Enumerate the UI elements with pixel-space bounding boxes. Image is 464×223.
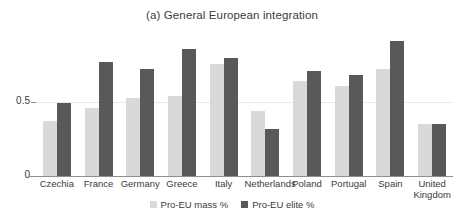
bar-pro-eu-elite[interactable]: [265, 129, 279, 176]
bar-pro-eu-mass[interactable]: [85, 108, 99, 176]
y-tick-label-zero: 0: [4, 170, 30, 180]
bar-pro-eu-elite[interactable]: [432, 124, 446, 176]
y-tick-label-half: 0.5: [4, 96, 30, 106]
legend-swatch-icon: [150, 201, 157, 208]
x-axis-label-spain: Spain: [370, 178, 412, 189]
bar-pro-eu-mass[interactable]: [126, 98, 140, 176]
bar-pro-eu-mass[interactable]: [293, 81, 307, 176]
x-axis-label-netherlands: Netherlands: [245, 178, 287, 189]
bar-group: [376, 28, 404, 176]
bar-group: [251, 28, 279, 176]
bar-pro-eu-elite[interactable]: [99, 62, 113, 176]
legend-label: Pro-EU mass %: [161, 199, 229, 210]
bar-group: [418, 28, 446, 176]
bar-group: [335, 28, 363, 176]
y-axis: 0.5 0: [0, 0, 30, 223]
bar-pro-eu-mass[interactable]: [418, 124, 432, 176]
bar-pro-eu-elite[interactable]: [224, 58, 238, 176]
x-axis-label-portugal: Portugal: [328, 178, 370, 189]
chart-title: (a) General European integration: [0, 9, 464, 21]
plot-area: [36, 28, 453, 176]
bar-pro-eu-elite[interactable]: [182, 49, 196, 176]
bar-group: [85, 28, 113, 176]
x-axis-label-poland: Poland: [286, 178, 328, 189]
x-axis-label-italy: Italy: [203, 178, 245, 189]
chart-legend: Pro-EU mass %Pro-EU elite %: [0, 199, 464, 210]
bar-pro-eu-mass[interactable]: [210, 64, 224, 176]
x-axis-line: [28, 176, 453, 177]
x-axis-label-united-kingdom: United Kingdom: [411, 178, 453, 200]
x-axis-label-france: France: [78, 178, 120, 189]
bar-pro-eu-mass[interactable]: [376, 69, 390, 176]
legend-item[interactable]: Pro-EU elite %: [241, 199, 314, 210]
bar-pro-eu-elite[interactable]: [57, 103, 71, 176]
bar-pro-eu-elite[interactable]: [349, 75, 363, 176]
bar-group: [126, 28, 154, 176]
bar-group: [293, 28, 321, 176]
bar-pro-eu-mass[interactable]: [168, 96, 182, 176]
bar-pro-eu-elite[interactable]: [307, 71, 321, 176]
legend-swatch-icon: [241, 201, 248, 208]
x-axis-label-greece: Greece: [161, 178, 203, 189]
x-axis-label-czechia: Czechia: [36, 178, 78, 189]
bar-group: [168, 28, 196, 176]
bar-group: [43, 28, 71, 176]
x-axis-label-germany: Germany: [119, 178, 161, 189]
bar-group: [210, 28, 238, 176]
chart-container: (a) General European integration 0.5 0 C…: [0, 0, 464, 223]
bar-pro-eu-elite[interactable]: [140, 69, 154, 176]
bar-pro-eu-elite[interactable]: [390, 41, 404, 176]
legend-item[interactable]: Pro-EU mass %: [150, 199, 229, 210]
bar-pro-eu-mass[interactable]: [251, 111, 265, 176]
legend-label: Pro-EU elite %: [252, 199, 314, 210]
bar-pro-eu-mass[interactable]: [43, 121, 57, 176]
bar-pro-eu-mass[interactable]: [335, 86, 349, 176]
